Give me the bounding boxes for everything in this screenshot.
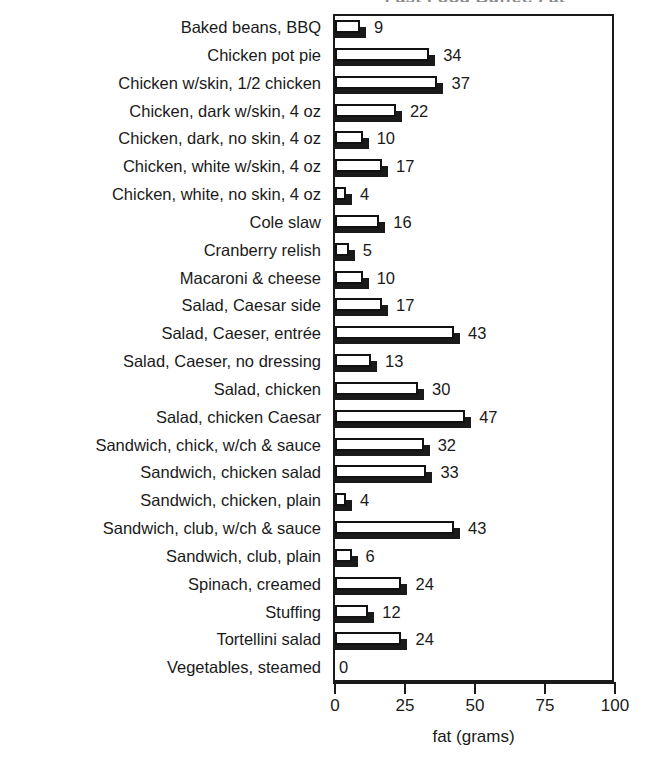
bar-value-label: 33 — [440, 462, 458, 483]
chart-title: Fast Food Buffet, Fat — [330, 0, 620, 2]
x-axis-tick — [614, 682, 616, 694]
category-label: Macaroni & cheese — [180, 265, 321, 293]
bar — [335, 215, 379, 228]
bar-row: 9 — [335, 16, 612, 44]
bar — [335, 20, 360, 33]
bar — [335, 521, 454, 534]
bar-value-label: 30 — [432, 379, 450, 400]
x-axis-tick — [334, 682, 336, 694]
bar-value-label: 16 — [393, 212, 411, 233]
bar-row: 37 — [335, 72, 612, 100]
bar-row: 22 — [335, 100, 612, 128]
bar — [335, 326, 454, 339]
category-label: Sandwich, club, plain — [166, 543, 321, 571]
bar — [335, 410, 465, 423]
bar-row: 33 — [335, 461, 612, 489]
bar — [335, 493, 346, 506]
bar-row: 12 — [335, 601, 612, 629]
category-label: Sandwich, club, w/ch & sauce — [103, 515, 321, 543]
bar-value-label: 4 — [360, 490, 369, 511]
x-axis-tick — [474, 682, 476, 694]
bar-row: 43 — [335, 517, 612, 545]
x-axis-tick-label: 75 — [536, 696, 555, 716]
category-label: Sandwich, chicken salad — [140, 459, 321, 487]
bar — [335, 131, 363, 144]
bar — [335, 187, 346, 200]
bar — [335, 605, 368, 618]
bar-value-label: 9 — [374, 17, 383, 38]
bar-row: 24 — [335, 628, 612, 656]
x-axis-tick-label: 100 — [601, 696, 629, 716]
category-label: Salad, Caeser, no dressing — [123, 348, 321, 376]
bar — [335, 159, 382, 172]
bar — [335, 465, 426, 478]
bar-value-label: 4 — [360, 184, 369, 205]
bar-row: 0 — [335, 656, 612, 684]
category-label: Chicken, white, no skin, 4 oz — [112, 181, 321, 209]
bar-value-label: 43 — [468, 518, 486, 539]
bar — [335, 354, 371, 367]
bar-row: 17 — [335, 294, 612, 322]
bar-value-label: 24 — [415, 574, 433, 595]
category-label: Stuffing — [265, 599, 321, 627]
bar-row: 4 — [335, 183, 612, 211]
category-label: Salad, Caesar side — [182, 292, 321, 320]
bar-row: 47 — [335, 406, 612, 434]
bar-value-label: 10 — [377, 268, 395, 289]
bar-value-label: 43 — [468, 323, 486, 344]
bar-row: 10 — [335, 127, 612, 155]
bars-layer: 9343722101741651017431330473233443624122… — [335, 16, 612, 680]
category-label: Baked beans, BBQ — [181, 14, 321, 42]
bar-row: 4 — [335, 489, 612, 517]
x-axis-tick — [544, 682, 546, 694]
bar-row: 6 — [335, 545, 612, 573]
category-label: Sandwich, chicken, plain — [140, 487, 321, 515]
x-axis-tick-label: 50 — [466, 696, 485, 716]
bar-value-label: 37 — [451, 73, 469, 94]
bar — [335, 382, 418, 395]
category-label: Sandwich, chick, w/ch & sauce — [95, 432, 321, 460]
category-label: Salad, chicken Caesar — [156, 404, 321, 432]
x-axis-tick-label: 25 — [396, 696, 415, 716]
bar — [335, 577, 401, 590]
bar-value-label: 13 — [385, 351, 403, 372]
bar-row: 43 — [335, 322, 612, 350]
bar-value-label: 5 — [363, 240, 372, 261]
fat-grams-bar-chart: Fast Food Buffet, Fat Baked beans, BBQCh… — [0, 0, 648, 768]
category-label: Salad, Caeser, entrée — [161, 320, 321, 348]
bar-value-label: 12 — [382, 602, 400, 623]
bar-value-label: 10 — [377, 128, 395, 149]
bar-row: 24 — [335, 573, 612, 601]
category-label: Chicken pot pie — [207, 42, 321, 70]
bar-value-label: 22 — [410, 101, 428, 122]
bar-value-label: 6 — [366, 546, 375, 567]
bar — [335, 48, 429, 61]
bar-value-label: 24 — [415, 629, 433, 650]
x-axis-tick — [404, 682, 406, 694]
bar-value-label: 17 — [396, 295, 414, 316]
category-label: Spinach, creamed — [188, 571, 321, 599]
bar-row: 13 — [335, 350, 612, 378]
category-label: Cranberry relish — [204, 237, 321, 265]
bar-value-label: 47 — [479, 407, 497, 428]
bar — [335, 243, 349, 256]
bar — [335, 298, 382, 311]
bar-row: 5 — [335, 239, 612, 267]
category-label: Chicken, dark, no skin, 4 oz — [118, 125, 321, 153]
category-label: Chicken w/skin, 1/2 chicken — [118, 70, 321, 98]
category-label: Chicken, dark w/skin, 4 oz — [129, 98, 321, 126]
bar — [335, 438, 424, 451]
bar-value-label: 0 — [339, 657, 348, 678]
category-label: Tortellini salad — [216, 626, 321, 654]
bar-row: 30 — [335, 378, 612, 406]
bar-row: 17 — [335, 155, 612, 183]
bar-value-label: 17 — [396, 156, 414, 177]
bar — [335, 632, 401, 645]
bar-row: 34 — [335, 44, 612, 72]
bar-value-label: 32 — [438, 435, 456, 456]
bar-row: 32 — [335, 434, 612, 462]
x-axis-title: fat (grams) — [333, 727, 614, 747]
x-axis-tick-label: 0 — [330, 696, 339, 716]
bar-row: 10 — [335, 267, 612, 295]
bar — [335, 104, 396, 117]
